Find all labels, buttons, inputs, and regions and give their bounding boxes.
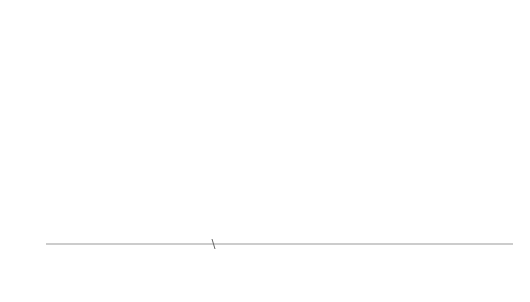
cropped-caption-strip [46,297,446,302]
landings-line-chart [0,0,530,302]
chart-figure [0,0,530,302]
